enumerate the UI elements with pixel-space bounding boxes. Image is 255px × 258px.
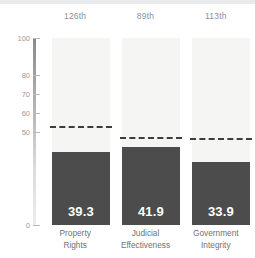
rank-label-judicial-effectiveness: 89th	[110, 8, 180, 24]
bar-property-rights[interactable]: 39.3	[52, 152, 110, 226]
bar-government-integrity[interactable]: 33.9	[192, 162, 250, 225]
x-label-judicial-effectiveness-line2: Effectiveness	[110, 240, 180, 252]
x-label-government-integrity-line1: Government	[181, 228, 251, 240]
bar-value-judicial-effectiveness: 41.9	[122, 204, 180, 219]
x-label-judicial-effectiveness: Judicial Effectiveness	[110, 228, 180, 251]
y-tick-100	[33, 38, 40, 39]
y-tick-70	[33, 94, 40, 95]
y-tick-label-70: 70	[4, 90, 30, 99]
y-tick-80	[33, 75, 40, 76]
x-label-property-rights: Property Rights	[40, 228, 110, 251]
y-tick-label-100: 100	[4, 34, 30, 43]
y-tick-0	[33, 225, 40, 226]
bar-chart: 126th 89th 113th 100 80 70 60 50 0 39.3 …	[0, 0, 255, 258]
y-tick-60	[33, 113, 40, 114]
x-label-government-integrity-line2: Integrity	[181, 240, 251, 252]
y-tick-label-60: 60	[4, 109, 30, 118]
bar-judicial-effectiveness[interactable]: 41.9	[122, 147, 180, 225]
bar-value-government-integrity: 33.9	[192, 204, 250, 219]
x-label-property-rights-line1: Property	[40, 228, 110, 240]
y-tick-label-0: 0	[4, 221, 30, 230]
y-tick-50	[33, 132, 40, 133]
reference-line-property-rights	[50, 126, 112, 128]
x-axis-label-row: Property Rights Judicial Effectiveness G…	[40, 228, 251, 251]
y-tick-label-80: 80	[4, 71, 30, 80]
bar-value-property-rights: 39.3	[52, 204, 110, 219]
x-label-property-rights-line2: Rights	[40, 240, 110, 252]
rank-label-row: 126th 89th 113th	[40, 8, 251, 24]
x-label-government-integrity: Government Integrity	[181, 228, 251, 251]
plot-area: 39.3 41.9 33.9	[40, 38, 251, 225]
rank-label-property-rights: 126th	[40, 8, 110, 24]
reference-line-government-integrity	[190, 138, 252, 140]
reference-line-judicial-effectiveness	[120, 137, 182, 139]
rank-label-government-integrity: 113th	[181, 8, 251, 24]
y-tick-label-50: 50	[4, 128, 30, 137]
top-band	[0, 0, 255, 4]
x-label-judicial-effectiveness-line1: Judicial	[110, 228, 180, 240]
